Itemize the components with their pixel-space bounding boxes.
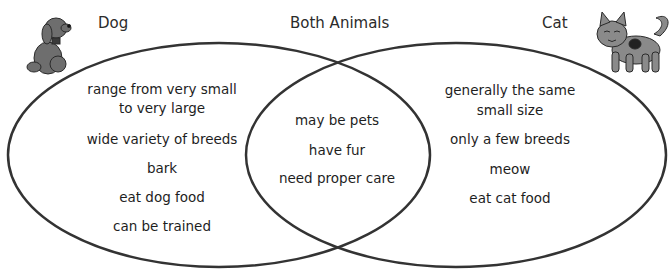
cat-item-1: only a few breeds	[450, 130, 570, 148]
both-title: Both Animals	[290, 14, 389, 32]
dog-item-0a: range from very small	[87, 80, 236, 98]
dog-item-1: wide variety of breeds	[87, 130, 238, 148]
cat-item-0b: small size	[477, 101, 543, 119]
cat-item-2: meow	[490, 160, 531, 178]
both-item-0: may be pets	[295, 111, 379, 129]
dog-icon	[27, 18, 71, 74]
both-item-2: need proper care	[279, 169, 395, 187]
cat-item-3: eat cat food	[469, 189, 550, 207]
dog-item-4: can be trained	[113, 217, 211, 235]
venn-diagram: Dog Both Animals Cat range from very sma…	[0, 0, 672, 277]
cat-icon	[597, 12, 668, 72]
dog-item-0b: to very large	[119, 99, 205, 117]
cat-item-0a: generally the same	[445, 81, 576, 99]
cat-title: Cat	[542, 14, 568, 32]
dog-title: Dog	[98, 14, 128, 32]
dog-item-3: eat dog food	[119, 188, 205, 206]
dog-item-2: bark	[147, 159, 177, 177]
dog-ellipse	[8, 43, 430, 267]
both-item-1: have fur	[309, 141, 365, 159]
